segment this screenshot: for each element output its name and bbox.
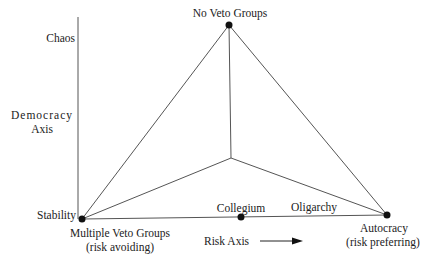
label-multiple-veto-groups: Multiple Veto Groups	[60, 227, 180, 240]
spoke-top-to-inner	[229, 25, 231, 158]
right-arrow-icon	[260, 238, 303, 245]
label-autocracy: Autocracy	[342, 222, 426, 235]
label-no-veto-groups: No Veto Groups	[178, 7, 282, 20]
label-democracy-axis-line2: Axis	[8, 123, 76, 136]
edge-bottom-risk-axis	[82, 215, 387, 219]
label-risk-axis: Risk Axis	[204, 235, 249, 248]
edge-top-to-bottom-left	[82, 25, 229, 219]
label-risk-avoiding: (risk avoiding)	[60, 241, 180, 254]
label-chaos: Chaos	[20, 32, 75, 45]
label-democracy-axis-line1: Democracy	[8, 109, 76, 122]
vertex-dot-no-veto-groups	[226, 22, 233, 29]
label-stability: Stability	[20, 209, 76, 222]
vertex-dot-multiple-veto-groups	[79, 216, 86, 223]
label-oligarchy: Oligarchy	[291, 201, 337, 214]
label-risk-preferring: (risk preferring)	[338, 236, 426, 249]
label-collegium: Collegium	[206, 202, 276, 215]
vertex-dot-autocracy	[384, 212, 391, 219]
